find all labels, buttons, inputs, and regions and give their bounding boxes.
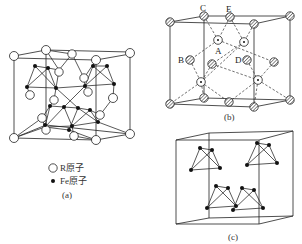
tetrahedron-1 — [189, 146, 222, 172]
panel-a-legend: R原子 Fe原子 — [49, 163, 87, 186]
panel-b-unit-cell: C E A B D (b) — [166, 3, 294, 122]
legend-fe-label: Fe原子 — [60, 176, 87, 186]
panel-b-interstitial-sites — [197, 36, 263, 87]
r-atom-legend-icon — [49, 164, 57, 172]
tetrahedron-3 — [205, 184, 238, 210]
site-label-d: D — [235, 55, 242, 65]
panel-b-hatched-atoms — [166, 12, 294, 111]
panel-a-unit-cell: R原子 Fe原子 (a) — [10, 46, 135, 201]
site-label-c: C — [200, 3, 206, 13]
panel-a-caption: (a) — [62, 190, 72, 200]
panel-b-site-labels: C E A B D — [178, 3, 242, 65]
panel-b-caption: (b) — [224, 112, 235, 122]
tetrahedron-2 — [245, 141, 279, 167]
panel-c-fe-tetrahedra — [189, 141, 279, 212]
site-label-a: A — [215, 46, 222, 56]
site-label-e: E — [226, 4, 232, 14]
panel-c-caption: (c) — [228, 232, 238, 242]
legend-r-label: R原子 — [60, 163, 84, 173]
tetrahedron-4 — [231, 186, 265, 212]
fe-atom-legend-icon — [51, 179, 55, 183]
site-label-b: B — [178, 55, 184, 65]
panel-a-r-atoms — [10, 46, 135, 145]
crystal-structure-figure: R原子 Fe原子 (a) — [0, 0, 302, 244]
panel-c-unit-cell: (c) — [176, 131, 293, 242]
